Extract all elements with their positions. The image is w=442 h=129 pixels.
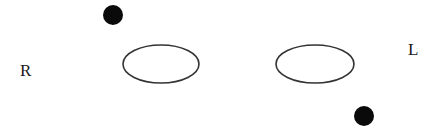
left-ellipse [123, 45, 199, 83]
right-ellipse [276, 45, 354, 83]
label-l: L [408, 41, 418, 58]
diagram-svg [0, 0, 442, 129]
lower-dot [354, 106, 374, 126]
diagram-canvas: R L [0, 0, 442, 129]
upper-dot [103, 5, 123, 25]
label-r: R [20, 62, 31, 79]
